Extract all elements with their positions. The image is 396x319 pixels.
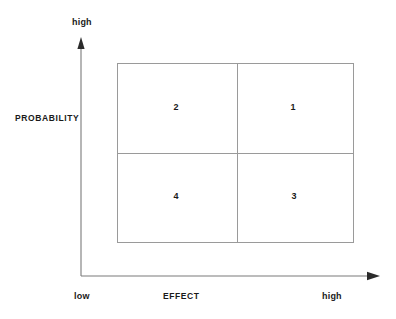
right-arrow-icon [367,272,380,281]
y-axis-high-label: high [72,17,92,27]
up-arrow-icon [77,37,84,49]
y-axis-title: PROBABILITY [15,113,79,123]
quadrant-label-top-left: 2 [173,102,178,112]
quadrant-label-bottom-left: 4 [173,191,178,201]
diagram-graphics [0,0,396,319]
x-axis-high-label: high [322,291,342,301]
quadrant-label-bottom-right: 3 [291,191,296,201]
matrix-diagram-canvas: high PROBABILITY low EFFECT high 2 1 4 3 [0,0,396,319]
x-axis-low-label: low [74,291,90,301]
x-axis-title: EFFECT [163,291,200,301]
quadrant-label-top-right: 1 [290,102,295,112]
